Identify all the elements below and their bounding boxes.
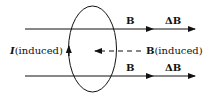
current-loop: [69, 6, 117, 92]
label-top-B: B: [126, 16, 134, 26]
label-current-suffix: (induced): [15, 45, 63, 56]
diagram-canvas: B ΔB B ΔB I(induced) B(induced): [0, 0, 204, 95]
label-top-dB: ΔB: [165, 16, 181, 26]
label-induced-B-suffix: (induced): [154, 45, 202, 56]
label-bottom-B: B: [126, 63, 134, 73]
label-bottom-dB: ΔB: [165, 63, 181, 73]
label-induced-field: B(induced): [146, 46, 203, 56]
label-induced-current: I(induced): [10, 46, 63, 56]
